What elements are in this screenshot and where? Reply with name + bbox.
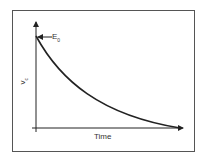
x-axis-label: Time bbox=[94, 132, 111, 141]
decay-curve bbox=[36, 36, 180, 128]
y-axis-label: vc bbox=[18, 78, 29, 85]
initial-voltage-label: E0 bbox=[52, 32, 60, 43]
